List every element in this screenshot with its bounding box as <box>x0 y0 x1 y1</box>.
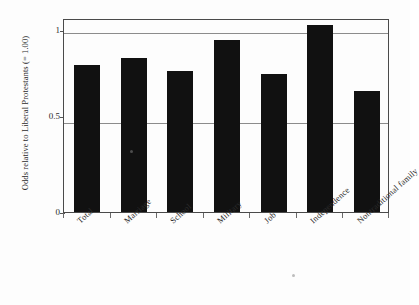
y-axis-title: Odds relative to Liberal Protestants (= … <box>20 13 30 213</box>
bars-layer <box>64 20 388 212</box>
bar-total <box>74 65 100 212</box>
y-tick-label-1: 1 <box>34 26 60 35</box>
plot-area <box>63 19 389 213</box>
x-axis-labels: TotalMarriageSchoolMilitaryJobIndependen… <box>63 218 403 304</box>
bar-nontraditional-family <box>354 91 380 212</box>
bar-military <box>214 40 240 212</box>
bar-marriage <box>121 58 147 212</box>
bar-school <box>167 71 193 212</box>
bar-job <box>261 74 287 212</box>
y-axis-ticks: 1 0.5 0 <box>30 0 60 305</box>
y-tick-label-0.5: 0.5 <box>34 112 60 121</box>
scan-speck <box>292 274 295 277</box>
bar-independence <box>307 25 333 212</box>
scan-speck <box>130 150 133 153</box>
y-tick-label-0: 0 <box>34 208 60 217</box>
